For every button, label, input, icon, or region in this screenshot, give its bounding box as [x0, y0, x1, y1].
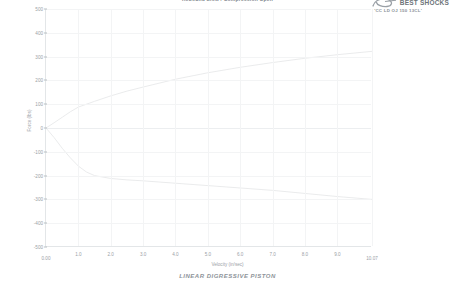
gridline-vertical [240, 9, 241, 246]
x-tick-label: 8.0 [302, 252, 308, 257]
gridline-vertical [372, 9, 373, 246]
gridline-vertical [273, 9, 274, 246]
x-tick-label: 5.0 [205, 252, 211, 257]
gridline-vertical [111, 9, 112, 246]
y-tick-mark [44, 151, 47, 152]
plot-area: 5004003002001000-100-200-300-400-5000.00… [45, 9, 371, 247]
y-tick-label: 300 [35, 54, 43, 59]
y-tick-label: 200 [35, 78, 43, 83]
gridline-vertical [143, 9, 144, 246]
brand-name: BEST SHOCKS [400, 0, 449, 6]
y-tick-label: -200 [34, 173, 43, 178]
x-axis-label: Velocity (in/sec) [0, 262, 455, 267]
series-line-rebound [46, 128, 372, 199]
chart-canvas: Rebound Slow / Compression Open BEST SHO… [0, 0, 455, 286]
y-tick-label: 100 [35, 102, 43, 107]
gridline-vertical [78, 9, 79, 246]
x-tick-label: 9.0 [334, 252, 340, 257]
x-tick-label: 7.0 [269, 252, 275, 257]
gridline-vertical [337, 9, 338, 246]
y-axis-label: Force (lbs) [27, 110, 32, 132]
gridline-vertical [208, 9, 209, 246]
x-tick-label: 0.00 [42, 256, 51, 261]
brand-subtitle: 'CC LD OJ 150 13CL' [374, 8, 422, 13]
y-tick-mark [44, 32, 47, 33]
y-tick-mark [44, 128, 47, 129]
y-tick-mark [44, 9, 47, 10]
y-tick-mark [44, 80, 47, 81]
y-tick-mark [44, 104, 47, 105]
chart-caption: LINEAR DIGRESSIVE PISTON [0, 273, 455, 279]
y-tick-label: -400 [34, 221, 43, 226]
series-line-compression [46, 51, 372, 128]
y-tick-label: 500 [35, 7, 43, 12]
x-tick-label: 10.07 [366, 256, 378, 261]
x-tick-label: 4.0 [172, 252, 178, 257]
y-tick-mark [44, 223, 47, 224]
y-tick-mark [44, 199, 47, 200]
y-tick-label: 400 [35, 30, 43, 35]
y-tick-label: -100 [34, 149, 43, 154]
y-tick-label: -500 [34, 245, 43, 250]
gridline-vertical [175, 9, 176, 246]
y-tick-label: -300 [34, 197, 43, 202]
y-tick-mark [44, 56, 47, 57]
y-tick-mark [44, 175, 47, 176]
gridline-vertical [305, 9, 306, 246]
y-tick-mark [44, 247, 47, 248]
x-tick-label: 1.0 [75, 252, 81, 257]
x-tick-label: 6.0 [237, 252, 243, 257]
x-tick-label: 3.0 [140, 252, 146, 257]
x-tick-label: 2.0 [108, 252, 114, 257]
y-tick-label: 0 [40, 126, 43, 131]
